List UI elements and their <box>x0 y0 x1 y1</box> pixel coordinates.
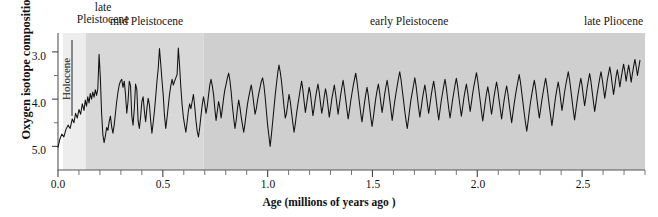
epoch-label-mid-pleistocene: mid Pleistocene <box>110 16 183 28</box>
y-axis-title: Oxygen isotope composition (‰) <box>19 0 34 140</box>
epoch-band-late-pliocene <box>601 33 645 170</box>
y-tick-label-4: 4.0 <box>14 97 46 109</box>
x-tick-label-5: 2.5 <box>563 178 603 190</box>
y-tick-label-5: 5.0 <box>14 144 46 156</box>
x-tick-label-3: 1.5 <box>353 178 393 190</box>
x-tick-label-2: 1.0 <box>248 178 288 190</box>
x-tick-label-1: 0.5 <box>143 178 183 190</box>
y-tick-label-3: 3.0 <box>14 50 46 62</box>
epoch-label-late-pliocene: late Pliocene <box>584 16 643 28</box>
epoch-label-early-pleistocene: early Pleistocene <box>370 16 448 28</box>
x-tick-label-4: 2.0 <box>458 178 498 190</box>
plot-area <box>0 0 658 217</box>
epoch-band-late-pleistocene <box>63 33 86 170</box>
epoch-band-group <box>58 33 645 170</box>
epoch-band-mid-pleistocene <box>86 33 204 170</box>
x-tick-label-0: 0.0 <box>38 178 78 190</box>
epoch-band-holocene <box>58 33 63 170</box>
x-axis-title: Age (millions of years ago ) <box>0 196 658 208</box>
epoch-label-holocene: Holocene <box>60 58 72 100</box>
epoch-label-late-pleistocene-line1: late <box>95 1 112 13</box>
oxygen-isotope-chart-figure: Oxygen isotope composition (‰) late Plei… <box>0 0 658 217</box>
